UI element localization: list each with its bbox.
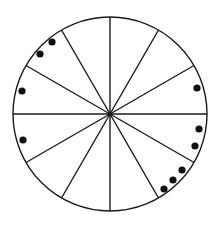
- sector-dividers: [13, 17, 207, 211]
- sector-divider-line: [110, 66, 194, 115]
- sector-divider-line: [110, 114, 194, 163]
- sector-divider-line: [26, 114, 110, 163]
- center-hub: [108, 112, 112, 116]
- dot-marker: [195, 125, 202, 132]
- dot-marker: [19, 136, 26, 143]
- dot-marker: [36, 50, 43, 57]
- dot-marker: [18, 87, 25, 94]
- dot-marker: [193, 84, 200, 91]
- sector-divider-line: [62, 114, 111, 198]
- dot-marker: [48, 38, 55, 45]
- dot-marker: [191, 142, 198, 149]
- sector-divider-line: [110, 114, 159, 198]
- sector-wheel-diagram: [0, 0, 217, 227]
- dot-marker: [169, 176, 176, 183]
- sector-divider-line: [110, 30, 159, 114]
- dot-marker: [178, 166, 185, 173]
- sector-divider-line: [62, 30, 111, 114]
- sector-divider-line: [26, 66, 110, 115]
- dot-marker: [160, 185, 167, 192]
